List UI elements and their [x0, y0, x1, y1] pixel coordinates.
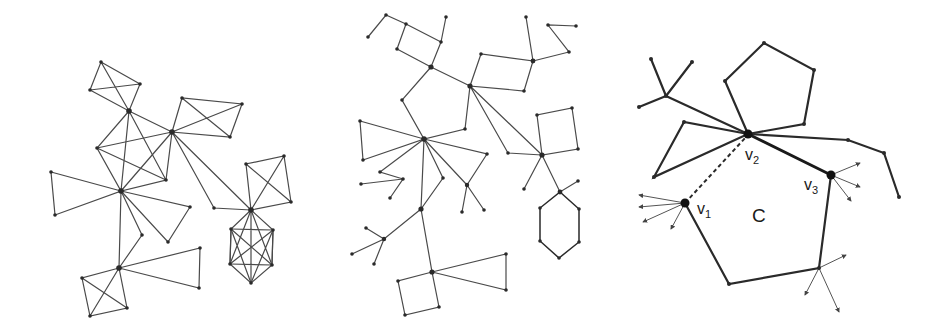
- right-graph: v1 v2 v3 C: [637, 41, 901, 312]
- figure-canvas: v1 v2 v3 C: [0, 0, 947, 334]
- label-v1: v1: [697, 200, 711, 220]
- vertex-v1: [681, 199, 690, 208]
- middle-graph: [350, 13, 581, 317]
- dashed-chord-v1-v2: [685, 137, 746, 203]
- vertex-v2: [744, 130, 753, 139]
- left-graph: [49, 60, 293, 318]
- vertex-v3: [827, 171, 836, 180]
- label-v3: v3: [804, 176, 818, 196]
- label-cycle-c: C: [752, 205, 766, 226]
- label-v2: v2: [745, 146, 759, 166]
